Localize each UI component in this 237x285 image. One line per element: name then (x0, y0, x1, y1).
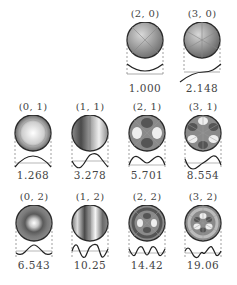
mode-value: 10.25 (62, 259, 118, 271)
mode-1-2-diagram-icon (62, 205, 118, 265)
mode-value: 2.148 (174, 82, 230, 94)
mode-1-1-diagram-icon (62, 115, 118, 175)
mode-label: (2, 1) (119, 101, 175, 112)
mode-value: 8.554 (175, 169, 231, 181)
mode-0-1-diagram-icon (5, 115, 61, 175)
mode-label: (1, 1) (62, 101, 118, 112)
mode-value: 3.278 (62, 169, 118, 181)
mode-value: 5.701 (119, 169, 175, 181)
mode-3-1-diagram-icon (175, 115, 231, 175)
mode-0-2-diagram-icon (6, 205, 62, 265)
mode-label: (3, 2) (175, 191, 231, 202)
mode-value: 6.543 (6, 259, 62, 271)
mode-label: (3, 1) (175, 101, 231, 112)
mode-label: (0, 1) (5, 101, 61, 112)
mode-1-2: (1, 2) 10.25 (62, 189, 118, 279)
mode-label: (2, 0) (117, 8, 173, 19)
mode-3-2: (3, 2) 19.06 (175, 189, 231, 279)
mode-label: (2, 2) (119, 191, 175, 202)
mode-label: (3, 0) (174, 8, 230, 19)
mode-value: 14.42 (119, 259, 175, 271)
mode-2-0: (2, 0) 1.000 (117, 6, 173, 96)
mode-value: 1.000 (117, 82, 173, 94)
mode-0-1: (0, 1) 1.268 (5, 99, 61, 189)
mode-2-2-diagram-icon (119, 205, 175, 265)
mode-value: 1.268 (5, 169, 61, 181)
mode-0-2: (0, 2) 6.543 (6, 189, 62, 279)
mode-1-1: (1, 1) 3.278 (62, 99, 118, 189)
mode-label: (1, 2) (62, 191, 118, 202)
mode-3-1: (3, 1) 8.554 (175, 99, 231, 189)
mode-value: 19.06 (175, 259, 231, 271)
mode-3-0: (3, 0) 2.148 (174, 6, 230, 96)
mode-3-2-diagram-icon (175, 205, 231, 265)
mode-2-1-diagram-icon (119, 115, 175, 175)
mode-2-2: (2, 2) 14.42 (119, 189, 175, 279)
mode-label: (0, 2) (6, 191, 62, 202)
mode-2-1: (2, 1) 5.701 (119, 99, 175, 189)
